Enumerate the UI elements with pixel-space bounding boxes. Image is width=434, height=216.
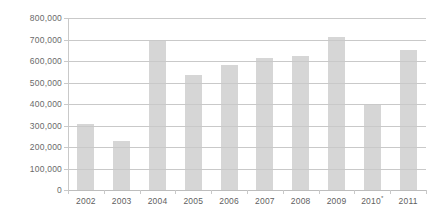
bar (185, 75, 202, 190)
x-axis-tick (68, 190, 69, 194)
x-axis-tick-label: 2009 (319, 196, 355, 206)
x-axis-tick-label: 2008 (283, 196, 319, 206)
plot-area (68, 18, 426, 190)
gridline (68, 40, 426, 41)
y-axis-tick-label: 200,000 (4, 143, 62, 152)
bar (77, 124, 94, 190)
y-axis-tick-label: 0 (4, 186, 62, 195)
x-axis-tick (319, 190, 320, 194)
y-axis-tick (64, 169, 68, 170)
gridline (68, 104, 426, 105)
x-axis-tick (211, 190, 212, 194)
gridline (68, 61, 426, 62)
x-axis-tick (175, 190, 176, 194)
gridline (68, 169, 426, 170)
x-axis-tick (390, 190, 391, 194)
gridline (68, 18, 426, 19)
y-axis-tick-label: 800,000 (4, 14, 62, 23)
y-axis-tick (64, 83, 68, 84)
x-axis-tick (354, 190, 355, 194)
gridline (68, 126, 426, 127)
x-axis-tick-label: 2005 (175, 196, 211, 206)
x-axis-tick (247, 190, 248, 194)
y-axis-tick (64, 147, 68, 148)
x-axis-tick-label: 2010* (354, 196, 390, 206)
bar (292, 56, 309, 190)
y-axis-tick (64, 61, 68, 62)
y-axis-tick-label: 100,000 (4, 165, 62, 174)
y-axis-tick-label: 600,000 (4, 57, 62, 66)
x-axis-tick-label: 2003 (104, 196, 140, 206)
x-axis-tick (283, 190, 284, 194)
y-axis-labels: 0100,000200,000300,000400,000500,000600,… (0, 0, 62, 216)
x-axis-tick (104, 190, 105, 194)
x-axis-tick (140, 190, 141, 194)
x-axis-tick-label: 2007 (247, 196, 283, 206)
x-axis-tick-label: 2011 (390, 196, 426, 206)
y-axis-tick-label: 400,000 (4, 100, 62, 109)
bar (256, 58, 273, 190)
y-axis-tick (64, 126, 68, 127)
x-axis-label-footnote-marker: * (381, 195, 384, 201)
x-axis-tick-label: 2002 (68, 196, 104, 206)
gridline (68, 83, 426, 84)
gridline (68, 147, 426, 148)
x-axis-labels: 200220032004200520062007200820092010*201… (68, 196, 426, 212)
y-axis-tick-label: 500,000 (4, 79, 62, 88)
x-axis-tick-label: 2004 (140, 196, 176, 206)
y-axis-tick-label: 300,000 (4, 122, 62, 131)
y-axis-tick-label: 700,000 (4, 36, 62, 45)
bar (149, 40, 166, 190)
bar-chart: 0100,000200,000300,000400,000500,000600,… (0, 0, 434, 216)
y-axis-tick (64, 104, 68, 105)
y-axis-tick (64, 18, 68, 19)
y-axis-tick (64, 40, 68, 41)
x-axis-tick (426, 190, 427, 194)
x-axis-tick-label: 2006 (211, 196, 247, 206)
x-axis-ticks (68, 190, 426, 194)
y-axis-tick (64, 190, 68, 191)
